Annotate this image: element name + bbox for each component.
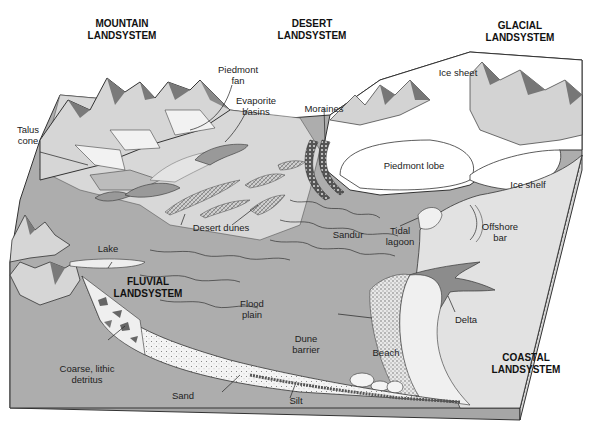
label-moraines: Moraines [304,103,343,114]
label-desert-dunes: Desert dunes [193,222,250,233]
label-dune-barrier: Dune barrier [292,333,319,355]
landsystem-title-coastal: COASTAL LANDSYSTEM [492,352,561,376]
label-delta: Delta [455,314,477,325]
label-sand: Sand [172,390,194,401]
label-beach: Beach [373,347,400,358]
label-ice-shelf: Ice shelf [510,179,545,190]
label-piedmont-fan: Piedmont fan [218,64,258,86]
landsystem-title-desert: DESERT LANDSYSTEM [278,18,347,42]
label-tidal-lagoon: Tidal lagoon [386,225,415,247]
landsystem-title-mountain: MOUNTAIN LANDSYSTEM [88,18,157,42]
landsystem-title-glacial: GLACIAL LANDSYSTEM [486,20,555,44]
label-silt: Silt [289,395,302,406]
label-sandur: Sandur [333,229,364,240]
label-flood-plain: Flood plain [240,298,264,320]
label-ice-sheet: Ice sheet [439,67,478,78]
label-offshore-bar: Offshore bar [482,221,518,243]
label-evaporite-basins: Evaporite basins [236,95,276,117]
label-lake: Lake [98,243,119,254]
label-coarse-detritus: Coarse, lithic detritus [60,363,115,385]
label-piedmont-lobe: Piedmont lobe [384,160,445,171]
label-talus-cone: Talus cone [17,124,39,146]
landsystem-title-fluvial: FLUVIAL LANDSYSTEM [114,276,183,300]
